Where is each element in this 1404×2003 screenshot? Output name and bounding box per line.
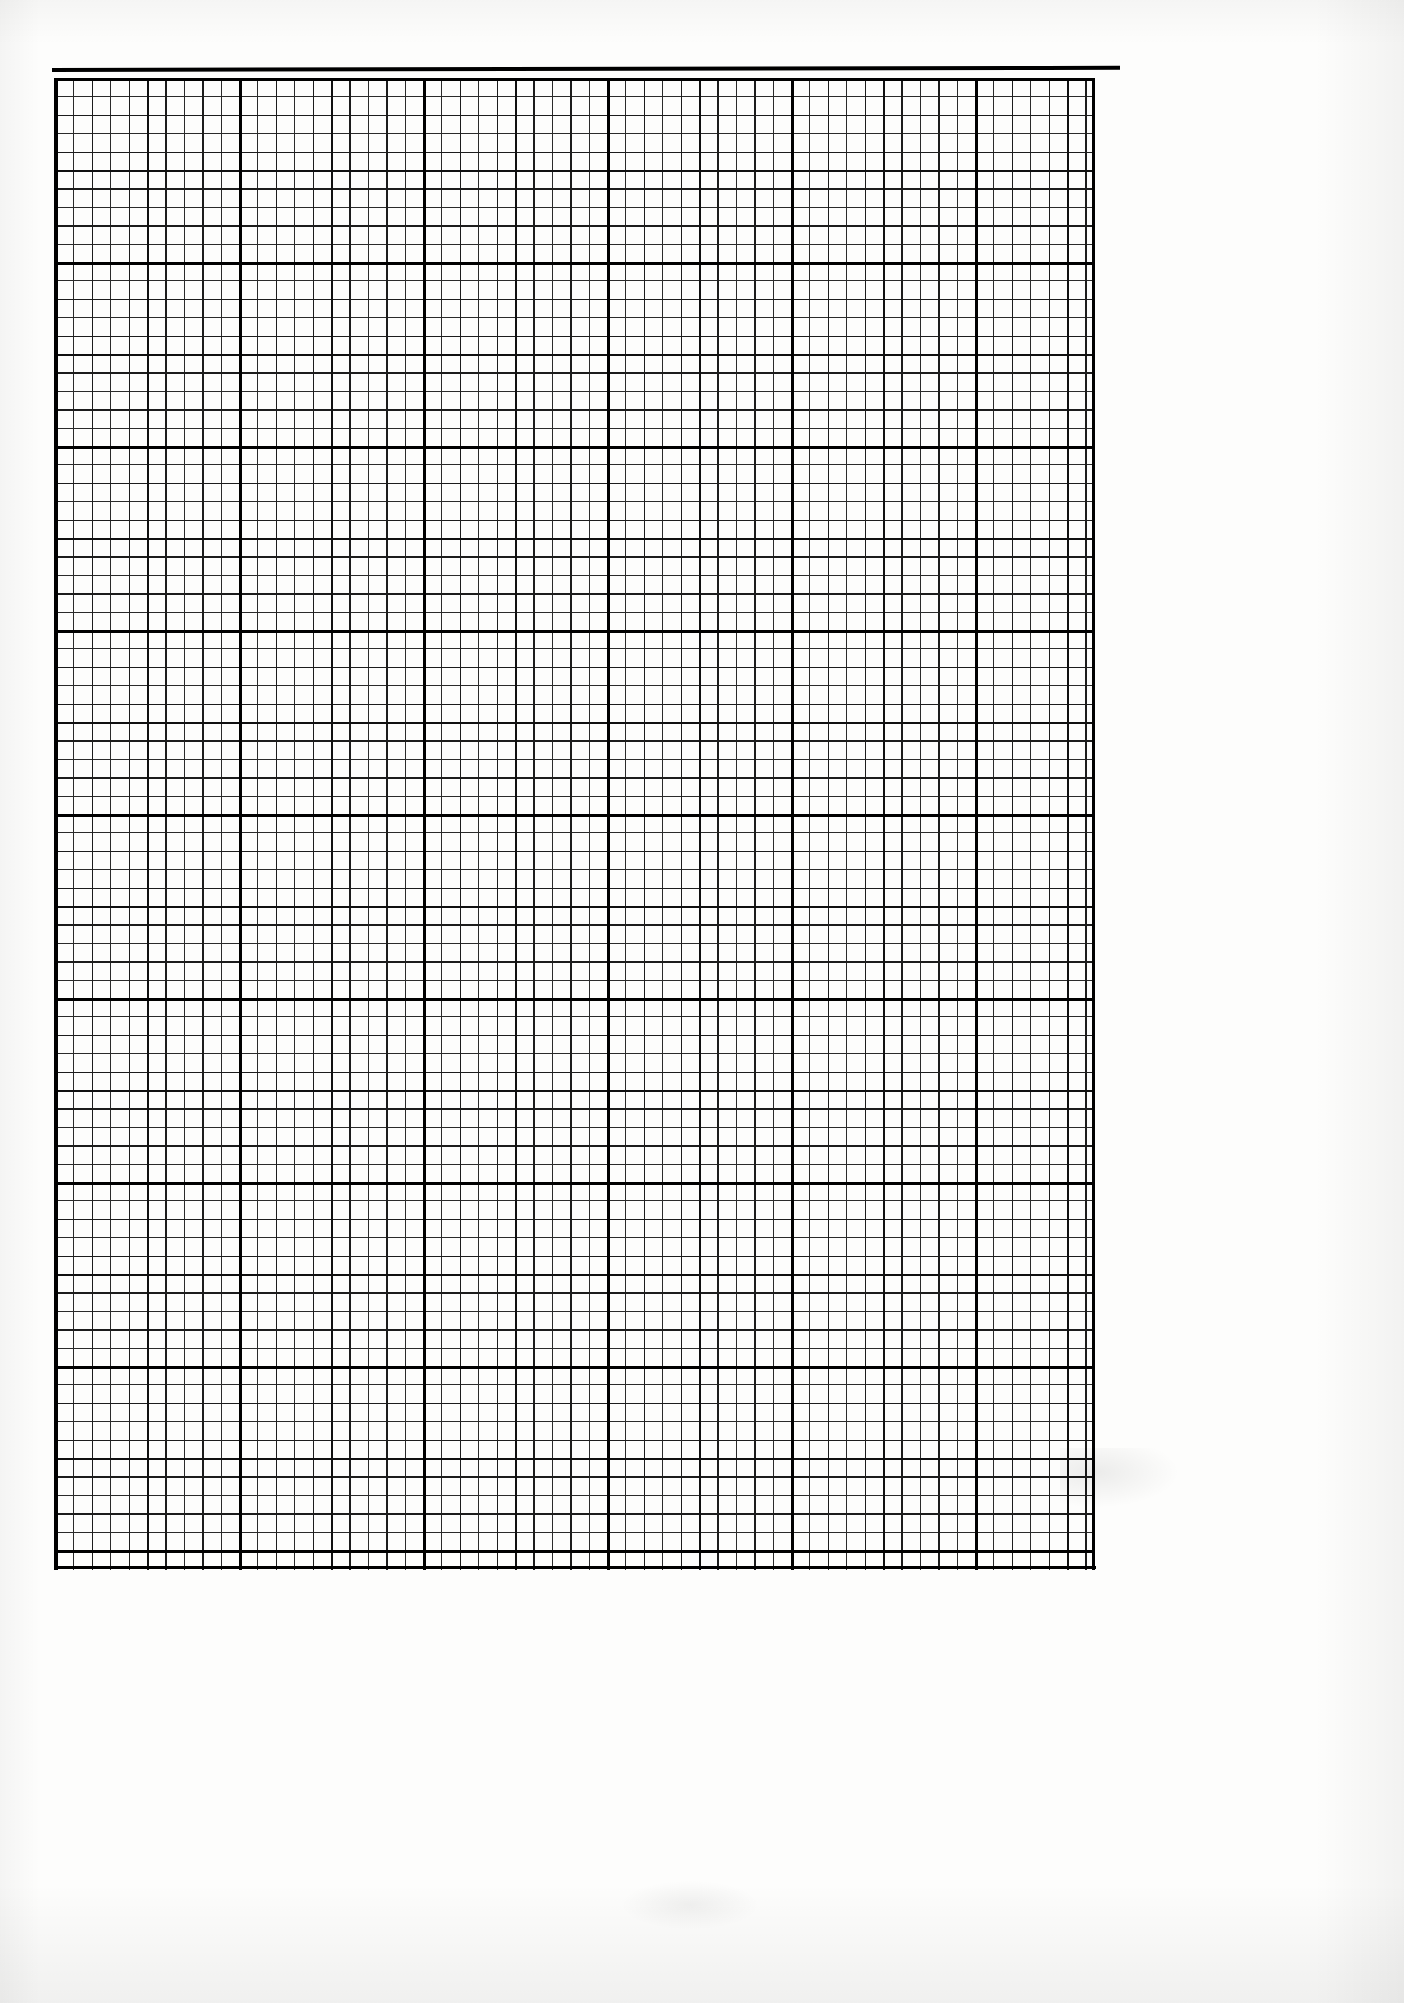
page-root — [0, 0, 1404, 2003]
grid-frame-right — [1092, 78, 1095, 1570]
grid-frame-left — [54, 78, 57, 1570]
scan-smudge-bottom-center — [620, 1880, 760, 1930]
grid-lines-extra-bold — [55, 78, 1095, 1570]
paper-sheet — [0, 0, 1404, 2003]
graph-grid — [55, 78, 1095, 1570]
top-border-rule-right-segment — [1045, 66, 1120, 70]
top-border-rule — [52, 66, 1052, 72]
grid-frame-bottom — [54, 1566, 1096, 1569]
